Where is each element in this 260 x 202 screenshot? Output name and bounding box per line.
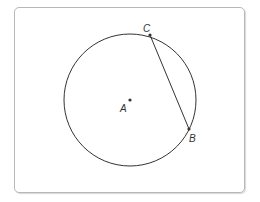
label-c: C	[143, 23, 151, 34]
circle-diagram: A B C	[0, 0, 260, 202]
label-b: B	[189, 133, 196, 144]
point-b	[187, 127, 190, 130]
point-a	[128, 98, 131, 101]
chord-cb	[150, 35, 189, 129]
label-a: A	[119, 103, 127, 114]
